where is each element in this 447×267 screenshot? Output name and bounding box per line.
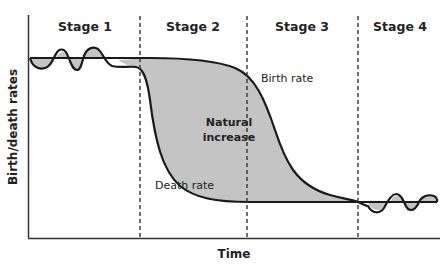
demographic-transition-chart: Stage 1 Stage 2 Stage 3 Stage 4 Birth ra… <box>0 0 447 267</box>
x-axis-title: Time <box>218 247 251 261</box>
natural-increase-label-line2: increase <box>203 131 255 144</box>
y-axis-title: Birth/death rates <box>6 69 20 185</box>
stage-3-label: Stage 3 <box>275 19 329 34</box>
stage-2-label: Stage 2 <box>166 19 220 34</box>
birth-rate-label: Birth rate <box>261 72 313 85</box>
stage-1-label: Stage 1 <box>58 19 112 34</box>
stage-4-label: Stage 4 <box>373 19 427 34</box>
death-rate-label: Death rate <box>155 179 214 192</box>
natural-increase-label-line1: Natural <box>206 116 252 129</box>
